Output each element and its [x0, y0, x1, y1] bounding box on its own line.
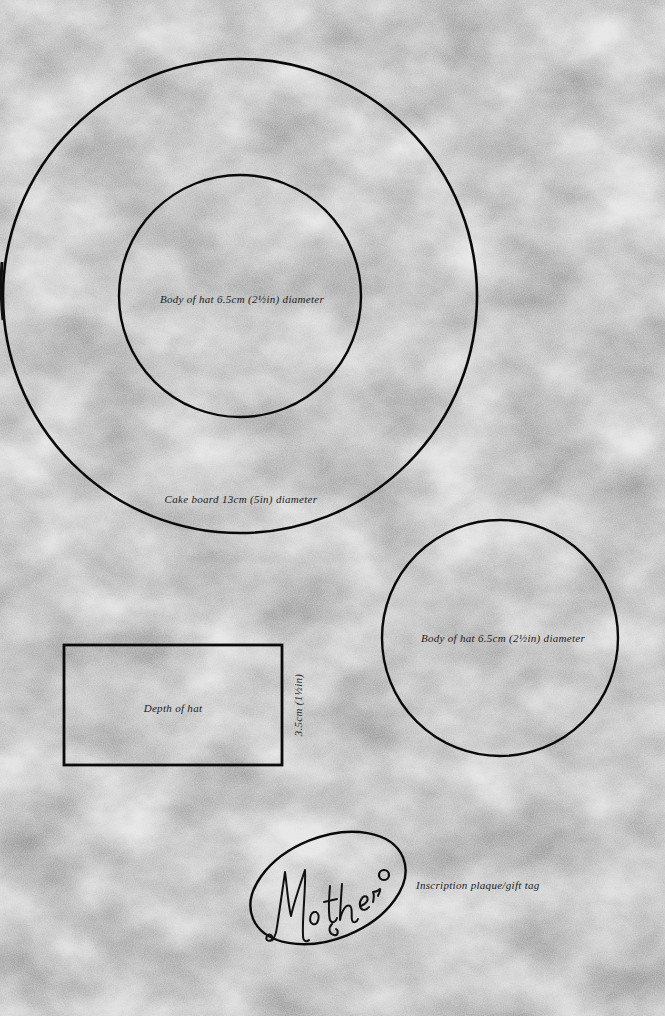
hat-body-separate-label-text: Body of hat 6.5cm (2½in) diameter — [421, 632, 585, 644]
plaque-label: Inscription plaque/gift tag — [416, 879, 540, 891]
plaque-oval — [234, 810, 422, 965]
hat-body-separate-label: Body of hat 6.5cm (2½in) diameter — [421, 632, 585, 644]
plaque-label-text: Inscription plaque/gift tag — [416, 879, 540, 891]
plaque-hole-icon — [379, 870, 389, 880]
edge-mark — [1, 262, 3, 320]
hat-body-inner-label-text: Body of hat 6.5cm (2½in) diameter — [160, 293, 324, 305]
hat-depth-dimension-text: 3.5cm (1½in) — [292, 674, 304, 737]
hat-depth-dimension-label: 3.5cm (1½in) — [292, 674, 304, 737]
hat-depth-label-text: Depth of hat — [144, 702, 203, 714]
cake-board-label: Cake board 13cm (5in) diameter — [165, 493, 318, 505]
hat-body-inner-label: Body of hat 6.5cm (2½in) diameter — [160, 293, 324, 305]
hat-depth-label: Depth of hat — [144, 702, 203, 714]
template-shapes — [0, 0, 665, 1016]
mother-script-inscription — [266, 870, 380, 941]
cake-board-label-text: Cake board 13cm (5in) diameter — [165, 493, 318, 505]
